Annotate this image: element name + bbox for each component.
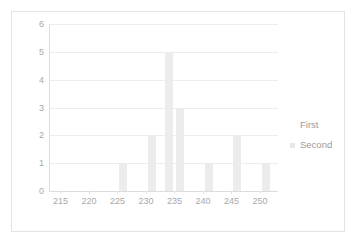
x-axis-tick-mark xyxy=(146,191,147,194)
bar xyxy=(233,135,241,191)
x-axis-tick-labels: 215220225230235240245250 xyxy=(49,196,278,210)
y-axis-tick-label: 2 xyxy=(20,131,44,140)
bar xyxy=(205,163,213,191)
x-axis-line xyxy=(49,191,278,192)
y-axis-tick-label: 1 xyxy=(20,159,44,168)
bar xyxy=(165,52,173,191)
y-axis-tick-label: 4 xyxy=(20,76,44,85)
x-axis-tick-mark xyxy=(203,191,204,194)
chart-legend: FirstSecond xyxy=(290,115,346,155)
x-axis-tick-mark xyxy=(89,191,90,194)
x-axis-tick-label: 220 xyxy=(75,196,103,206)
y-axis-tick-label: 0 xyxy=(20,187,44,196)
x-axis-tick-mark xyxy=(117,191,118,194)
y-axis-tick-label: 6 xyxy=(20,20,44,29)
legend-item-label: First xyxy=(300,119,318,130)
chart-card: 6543210 215220225230235240245250 FirstSe… xyxy=(11,11,345,232)
x-axis-tick-label: 225 xyxy=(103,196,131,206)
plot-area xyxy=(49,24,277,191)
y-axis-tick-labels: 6543210 xyxy=(12,24,44,192)
bar xyxy=(119,163,127,191)
legend-item[interactable]: Second xyxy=(290,135,346,155)
x-axis-tick-label: 240 xyxy=(189,196,217,206)
bar xyxy=(262,163,270,191)
y-axis-tick-label: 5 xyxy=(20,48,44,57)
bar xyxy=(176,108,184,192)
x-axis-tick-mark xyxy=(60,191,61,194)
legend-swatch-second xyxy=(290,143,295,148)
x-axis-tick-label: 245 xyxy=(217,196,245,206)
bar xyxy=(148,135,156,191)
y-axis-tick-label: 3 xyxy=(20,104,44,113)
x-axis-tick-mark xyxy=(260,191,261,194)
x-axis-tick-label: 215 xyxy=(46,196,74,206)
x-axis-tick-label: 235 xyxy=(160,196,188,206)
x-axis-tick-label: 250 xyxy=(246,196,274,206)
legend-swatch-first xyxy=(290,123,295,128)
x-axis-tick-mark xyxy=(174,191,175,194)
x-axis-tick-label: 230 xyxy=(132,196,160,206)
legend-item[interactable]: First xyxy=(290,115,346,135)
x-axis-tick-mark xyxy=(231,191,232,194)
legend-item-label: Second xyxy=(300,139,332,150)
